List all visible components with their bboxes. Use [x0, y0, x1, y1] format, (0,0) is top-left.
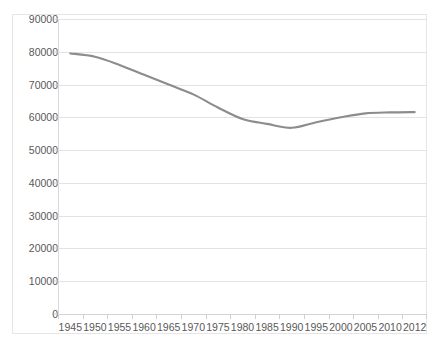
x-axis-tick-label: 1950	[83, 321, 106, 333]
x-axis-tick-label: 1995	[305, 321, 328, 333]
y-axis-tick-label: 80000	[14, 46, 58, 58]
y-axis-tick-label: 90000	[14, 13, 58, 25]
x-axis-tick-mark	[329, 314, 330, 319]
y-axis-tick-mark	[54, 150, 58, 151]
x-axis-tick-mark	[107, 314, 108, 319]
x-axis-tick-mark	[58, 314, 59, 319]
y-axis-tick-mark	[54, 117, 58, 118]
y-axis-tick-label: 60000	[14, 111, 58, 123]
series-line-path	[70, 53, 414, 127]
y-axis-tick-mark	[54, 248, 58, 249]
clipped-text-remnant: · · · · · ·	[0, 0, 440, 11]
x-axis-tick-mark	[132, 314, 133, 319]
chart-frame: 0100002000030000400005000060000700008000…	[12, 14, 427, 334]
x-axis-tick-label: 2000	[329, 321, 352, 333]
y-axis-tick-label: 20000	[14, 242, 58, 254]
x-axis-tick-label: 1975	[206, 321, 229, 333]
y-axis-tick-label: 0	[14, 308, 58, 320]
y-axis-tick-label: 70000	[14, 79, 58, 91]
y-axis-tick-mark	[54, 281, 58, 282]
x-axis-ticks	[58, 314, 427, 319]
x-axis-tick-mark	[230, 314, 231, 319]
x-axis-tick-label: 1965	[157, 321, 180, 333]
x-axis-tick-label: 2005	[354, 321, 377, 333]
plot-area	[58, 19, 427, 314]
y-axis-tick-mark	[54, 51, 58, 52]
x-axis-tick-mark	[353, 314, 354, 319]
x-axis-tick-mark	[378, 314, 379, 319]
y-axis-tick-mark	[54, 19, 58, 20]
x-axis-tick-label: 1990	[280, 321, 303, 333]
y-axis-tick-label: 30000	[14, 210, 58, 222]
x-axis-tick-label: 1985	[255, 321, 278, 333]
x-axis-tick-label: 1980	[231, 321, 254, 333]
clipped-text-ghost: · · · · · ·	[96, 0, 157, 3]
x-axis-tick-mark	[206, 314, 207, 319]
x-axis-tick-label: 2012	[403, 321, 426, 333]
x-axis-tick-mark	[255, 314, 256, 319]
y-axis-tick-mark	[54, 215, 58, 216]
x-axis-tick-label: 2010	[378, 321, 401, 333]
x-axis-tick-mark	[426, 314, 427, 319]
x-axis-tick-label: 1955	[108, 321, 131, 333]
x-axis-tick-label: 1970	[182, 321, 205, 333]
y-axis-tick-mark	[54, 314, 58, 315]
x-axis-tick-label: 1960	[132, 321, 155, 333]
x-axis-tick-mark	[304, 314, 305, 319]
line-series	[58, 19, 427, 314]
x-axis-tick-label: 1945	[59, 321, 82, 333]
x-axis-tick-mark	[181, 314, 182, 319]
y-axis-tick-mark	[54, 84, 58, 85]
x-axis-tick-mark	[156, 314, 157, 319]
x-axis-tick-mark	[279, 314, 280, 319]
y-axis-tick-mark	[54, 182, 58, 183]
x-axis-tick-mark	[402, 314, 403, 319]
x-axis-labels: 1945195019551960196519701975198019851990…	[58, 321, 427, 337]
y-axis-labels: 0100002000030000400005000060000700008000…	[13, 15, 58, 335]
y-axis-tick-label: 40000	[14, 177, 58, 189]
y-axis-tick-label: 10000	[14, 275, 58, 287]
x-axis-tick-mark	[83, 314, 84, 319]
y-axis-tick-label: 50000	[14, 144, 58, 156]
chart-canvas: 0100002000030000400005000060000700008000…	[13, 15, 428, 335]
